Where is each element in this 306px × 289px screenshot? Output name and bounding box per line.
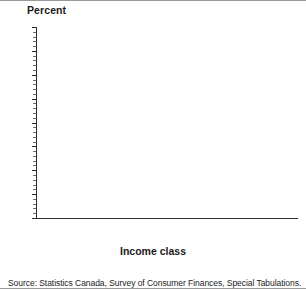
y-axis-minor-tick [33,180,36,181]
y-axis-minor-tick [33,137,36,138]
y-axis-minor-tick [33,103,36,104]
y-axis-minor-tick [33,80,36,81]
y-axis-minor-tick [33,113,36,114]
y-axis-line [36,28,37,219]
chart-figure: Percent 01020304050607080 Income class S… [0,0,306,289]
chart-legend [0,262,306,276]
plot-area: 01020304050607080 [36,28,298,219]
y-axis-minor-tick [33,142,36,143]
y-axis-minor-tick [33,32,36,33]
y-axis-major-tick [32,170,37,171]
y-axis-major-tick [32,51,37,52]
y-axis-minor-tick [33,118,36,119]
y-axis-minor-tick [33,132,36,133]
y-axis-minor-tick [33,199,36,200]
y-axis-minor-tick [33,37,36,38]
y-axis-major-tick [32,146,37,147]
y-axis-minor-tick [33,41,36,42]
y-axis-minor-tick [33,65,36,66]
y-axis-minor-tick [33,56,36,57]
y-axis-minor-tick [33,185,36,186]
y-axis-major-tick [32,194,37,195]
y-axis-major-tick [32,123,37,124]
source-note: Source: Statistics Canada, Survey of Con… [8,278,301,288]
y-axis-minor-tick [33,156,36,157]
y-axis-minor-tick [33,46,36,47]
y-axis-minor-tick [33,70,36,71]
y-axis-minor-tick [33,127,36,128]
y-axis-title: Percent [27,4,66,16]
y-axis-minor-tick [33,94,36,95]
y-axis-minor-tick [33,208,36,209]
y-axis-major-tick [32,99,37,100]
y-axis-minor-tick [33,175,36,176]
y-axis-minor-tick [33,151,36,152]
y-axis-minor-tick [33,189,36,190]
y-axis-minor-tick [33,204,36,205]
y-axis-minor-tick [33,165,36,166]
y-axis-minor-tick [33,89,36,90]
y-axis-minor-tick [33,213,36,214]
y-axis-minor-tick [33,108,36,109]
y-axis-minor-tick [33,60,36,61]
y-axis-minor-tick [33,161,36,162]
y-axis-major-tick [32,27,37,28]
y-axis-major-tick [32,75,37,76]
x-axis-line [36,218,298,219]
x-axis-title: Income class [0,245,306,257]
y-axis-minor-tick [33,84,36,85]
